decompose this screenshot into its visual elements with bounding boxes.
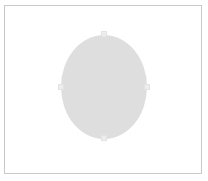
drawing-canvas[interactable] [0, 0, 208, 181]
resize-handle-top[interactable] [101, 31, 107, 37]
ellipse-shape[interactable] [61, 35, 147, 139]
shape-layer [0, 0, 208, 181]
resize-handle-left[interactable] [58, 84, 64, 90]
resize-handle-bottom[interactable] [101, 135, 107, 141]
resize-handle-right[interactable] [144, 84, 150, 90]
